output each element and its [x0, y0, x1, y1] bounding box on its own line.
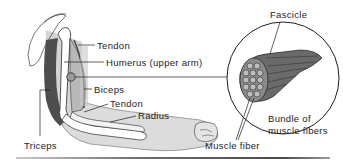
magnify-marker: [67, 73, 75, 81]
label-bundle-line1: Bundle of: [268, 113, 311, 124]
label-bundle-line2: muscle fibers: [268, 125, 328, 136]
label-biceps: Biceps: [94, 84, 124, 95]
label-humerus: Humerus (upper arm): [106, 57, 203, 68]
arm-muscle-diagram: Tendon Humerus (upper arm) Biceps Tendon…: [0, 0, 343, 166]
label-triceps: Triceps: [24, 140, 57, 151]
label-radius: Radius: [138, 110, 169, 121]
label-tendon-lower: Tendon: [110, 98, 143, 109]
label-fascicle: Fascicle: [270, 9, 307, 20]
label-muscle-fiber: Muscle fiber: [205, 140, 260, 151]
hand: [194, 122, 217, 142]
biceps-shade: [80, 46, 88, 106]
bottom-rule: [16, 157, 330, 159]
label-tendon-upper: Tendon: [97, 40, 130, 51]
clavicle: [44, 14, 66, 22]
